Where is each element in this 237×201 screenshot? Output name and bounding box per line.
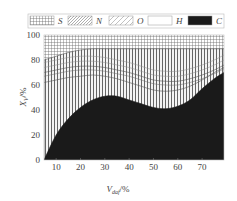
y-tick-label: 80 bbox=[31, 55, 41, 65]
plot-area bbox=[44, 35, 224, 160]
legend-swatch bbox=[30, 16, 54, 25]
y-tick-label: 40 bbox=[31, 105, 41, 115]
x-tick-label: 20 bbox=[76, 162, 86, 172]
legend-item-S: S bbox=[30, 16, 63, 26]
legend-label: C bbox=[216, 16, 223, 26]
legend-label: S bbox=[58, 16, 63, 26]
y-axis-label: XV/% bbox=[18, 87, 29, 108]
x-axis-label: Vdaf/% bbox=[106, 184, 130, 195]
y-tick-label: 100 bbox=[27, 30, 41, 40]
y-tick-label: 60 bbox=[31, 80, 41, 90]
x-tick-label: 40 bbox=[125, 162, 135, 172]
legend-item-N: N bbox=[68, 16, 103, 26]
legend-label: N bbox=[95, 16, 103, 26]
chart: SNOHC 10203040506070020406080100 Vdaf/% … bbox=[0, 0, 237, 201]
legend-label: H bbox=[175, 16, 183, 26]
y-tick-label: 0 bbox=[36, 155, 41, 165]
x-tick-label: 30 bbox=[100, 162, 110, 172]
x-tick-label: 70 bbox=[198, 162, 208, 172]
legend-swatch bbox=[188, 16, 212, 25]
x-tick-label: 50 bbox=[149, 162, 159, 172]
legend-swatch bbox=[148, 16, 172, 25]
legend: SNOHC bbox=[28, 14, 224, 28]
legend-item-C: C bbox=[188, 16, 223, 26]
legend-item-O: O bbox=[109, 16, 144, 26]
legend-item-H: H bbox=[148, 16, 183, 26]
legend-swatch bbox=[109, 16, 133, 25]
x-tick-label: 60 bbox=[173, 162, 183, 172]
x-tick-label: 10 bbox=[52, 162, 62, 172]
legend-label: O bbox=[137, 16, 144, 26]
y-tick-label: 20 bbox=[31, 130, 41, 140]
legend-swatch bbox=[68, 16, 92, 25]
